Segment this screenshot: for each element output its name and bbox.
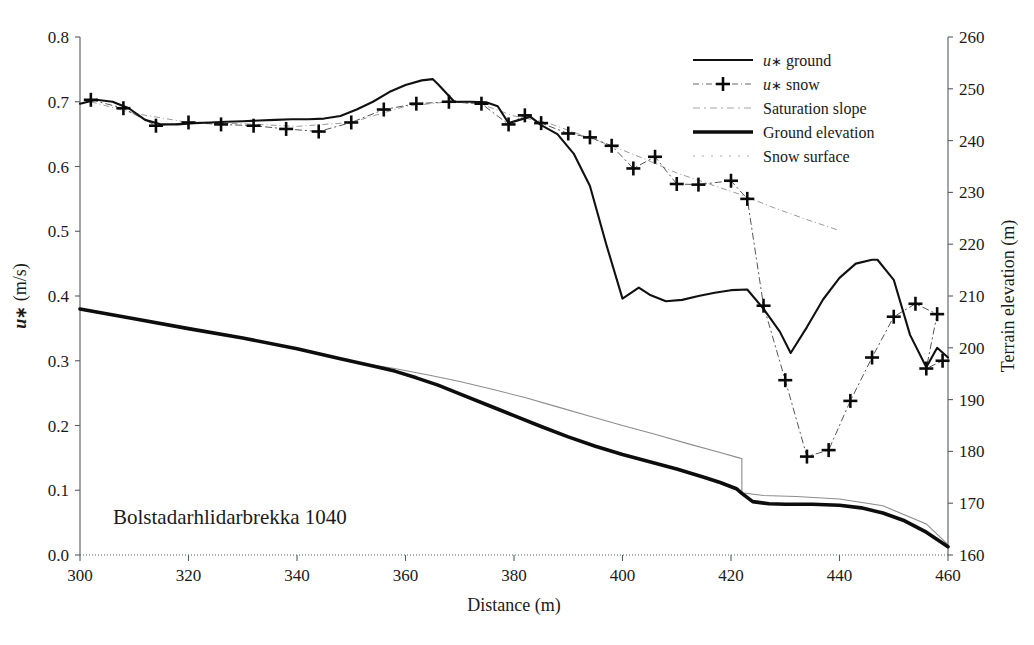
x-axis-tick-label: 400 [610, 566, 636, 585]
data-point-marker [778, 373, 792, 387]
chart-legend: u∗ groundu∗ snowSaturation slopeGround e… [693, 52, 875, 165]
data-point-marker [409, 97, 423, 111]
y-axis-right-tick-label: 160 [959, 546, 985, 565]
chart-canvas: 0.00.10.20.30.40.50.60.70.81601701801902… [0, 0, 1034, 645]
y-axis-left-title: u∗ (m/s) [10, 263, 31, 329]
data-point-marker [887, 310, 901, 324]
x-axis-tick-label: 300 [67, 566, 93, 585]
svg-text:u∗ (m/s): u∗ (m/s) [10, 263, 31, 329]
y-axis-left-tick-label: 0.8 [48, 28, 69, 47]
data-point-marker [822, 443, 836, 457]
data-point-marker [865, 351, 879, 365]
data-point-marker [502, 117, 516, 131]
data-point-marker [691, 178, 705, 192]
series-saturation-slope [91, 102, 840, 231]
data-point-marker [442, 95, 456, 109]
data-point-marker [84, 93, 98, 107]
data-point-marker [214, 117, 228, 131]
y-axis-right-tick-label: 220 [959, 235, 985, 254]
legend-entry-saturation-slope[interactable]: Saturation slope [693, 100, 867, 118]
y-axis-left-tick-label: 0.5 [48, 222, 69, 241]
x-axis-tick-label: 460 [935, 566, 961, 585]
x-axis-title: Distance (m) [467, 595, 560, 616]
legend-label: Saturation slope [763, 100, 867, 118]
x-axis-tick-label: 420 [718, 566, 744, 585]
y-axis-right-tick-label: 260 [959, 28, 985, 47]
y-axis-left-tick-label: 0.0 [48, 546, 69, 565]
x-axis-tick-label: 360 [393, 566, 419, 585]
y-axis-left-tick-label: 0.2 [48, 417, 69, 436]
x-axis-tick-label: 380 [501, 566, 527, 585]
chart-annotation: Bolstadarhlidarbrekka 1040 [113, 505, 347, 529]
y-axis-left-tick-label: 0.7 [48, 93, 70, 112]
data-point-marker [908, 297, 922, 311]
svg-text:Terrain elevation (m): Terrain elevation (m) [998, 220, 1019, 373]
legend-entry-ustar-ground[interactable]: u∗ ground [693, 52, 831, 70]
data-point-marker [670, 177, 684, 191]
chart-figure: 0.00.10.20.30.40.50.60.70.81601701801902… [0, 0, 1034, 645]
y-axis-right-tick-label: 230 [959, 183, 985, 202]
y-axis-right-tick-label: 250 [959, 80, 985, 99]
data-point-marker [344, 115, 358, 129]
x-axis-tick-label: 340 [284, 566, 310, 585]
legend-label: u∗ ground [763, 52, 831, 70]
legend-label: Ground elevation [763, 124, 875, 141]
legend-label: u∗ snow [763, 76, 820, 93]
data-point-marker [279, 122, 293, 136]
data-point-marker [930, 307, 944, 321]
y-axis-left-tick-label: 0.1 [48, 481, 69, 500]
y-axis-right-title: Terrain elevation (m) [998, 220, 1019, 373]
data-point-marker [757, 299, 771, 313]
y-axis-right-tick-label: 190 [959, 391, 985, 410]
data-point-marker [800, 450, 814, 464]
y-axis-right-tick-label: 180 [959, 442, 985, 461]
data-point-marker [724, 174, 738, 188]
y-axis-right-tick-label: 200 [959, 339, 985, 358]
series-ustar-ground [80, 79, 948, 367]
data-point-marker [312, 125, 326, 139]
legend-label: Snow surface [763, 148, 850, 165]
data-point-marker [605, 139, 619, 153]
legend-entry-ground-elevation[interactable]: Ground elevation [693, 124, 875, 141]
data-point-marker [182, 115, 196, 129]
legend-entry-snow-surface[interactable]: Snow surface [693, 148, 850, 165]
data-point-marker [843, 394, 857, 408]
legend-entry-ustar-snow[interactable]: u∗ snow [693, 76, 820, 93]
y-axis-right-tick-label: 240 [959, 132, 985, 151]
y-axis-left-tick-label: 0.4 [48, 287, 70, 306]
legend-swatch-plus-icon [716, 77, 730, 91]
y-axis-left-tick-label: 0.6 [48, 158, 69, 177]
y-axis-right-tick-label: 210 [959, 287, 985, 306]
data-point-marker [919, 362, 933, 376]
x-axis-tick-label: 320 [176, 566, 202, 585]
data-point-marker [583, 130, 597, 144]
y-axis-right-tick-label: 170 [959, 494, 985, 513]
plot-annotation-label: Bolstadarhlidarbrekka 1040 [113, 505, 347, 529]
x-axis-tick-label: 440 [827, 566, 853, 585]
y-axis-left-tick-label: 0.3 [48, 352, 69, 371]
data-point-marker [474, 97, 488, 111]
